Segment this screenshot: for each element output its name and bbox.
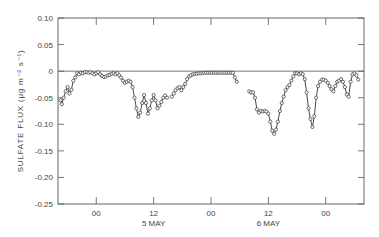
data-point-marker bbox=[355, 74, 358, 77]
data-point-marker bbox=[144, 101, 147, 104]
data-point-marker bbox=[184, 82, 187, 85]
data-point-marker bbox=[60, 102, 63, 105]
data-point-marker bbox=[170, 95, 173, 98]
data-point-marker bbox=[274, 128, 277, 131]
sulfate-flux-chart: 0.100.050-0.05-0.10-0.15-0.20-0.25 00125… bbox=[0, 0, 379, 237]
data-point-marker bbox=[182, 85, 185, 88]
data-point-marker bbox=[303, 78, 306, 81]
data-point-marker bbox=[307, 107, 310, 110]
data-point-marker bbox=[317, 84, 320, 87]
data-point-marker bbox=[235, 80, 238, 83]
data-point-marker bbox=[142, 93, 145, 96]
data-point-marker bbox=[68, 92, 71, 95]
data-point-marker bbox=[72, 79, 75, 82]
data-point-marker bbox=[120, 76, 123, 79]
data-point-marker bbox=[253, 96, 256, 99]
data-point-marker bbox=[160, 100, 163, 103]
y-tick-label: 0.10 bbox=[37, 14, 53, 23]
data-point-marker bbox=[129, 80, 132, 83]
data-point-marker bbox=[341, 80, 344, 83]
data-point-marker bbox=[290, 79, 293, 82]
data-point-marker bbox=[180, 89, 183, 92]
data-point-marker bbox=[292, 75, 295, 78]
data-point-marker bbox=[131, 85, 134, 88]
data-point-marker bbox=[148, 107, 151, 110]
data-point-marker bbox=[349, 80, 352, 83]
data-point-marker bbox=[146, 112, 149, 115]
data-point-marker bbox=[301, 73, 304, 76]
data-series bbox=[59, 71, 360, 136]
data-point-marker bbox=[328, 84, 331, 87]
data-point-marker bbox=[357, 78, 360, 81]
data-point-marker bbox=[278, 109, 281, 112]
data-point-marker bbox=[152, 93, 155, 96]
data-point-marker bbox=[282, 95, 285, 98]
data-point-marker bbox=[66, 85, 69, 88]
x-tick-label: 12 bbox=[264, 209, 273, 218]
data-point-marker bbox=[233, 76, 236, 79]
data-point-marker bbox=[62, 96, 65, 99]
flux-line-segment bbox=[172, 73, 237, 97]
data-point-marker bbox=[133, 96, 136, 99]
data-point-marker bbox=[332, 90, 335, 93]
data-point-marker bbox=[347, 95, 350, 98]
data-point-marker bbox=[165, 96, 168, 99]
y-tick-label: 0 bbox=[49, 67, 54, 76]
data-point-marker bbox=[267, 112, 270, 115]
data-point-marker bbox=[150, 99, 153, 102]
x-axis: 00125 MAY00126 MAY00 bbox=[92, 18, 331, 228]
data-point-marker bbox=[305, 91, 308, 94]
data-point-marker bbox=[141, 101, 144, 104]
y-axis-label: SULFATE FLUX (μg m⁻² s⁻¹) bbox=[16, 50, 25, 173]
data-point-marker bbox=[255, 108, 258, 111]
x-tick-label: 00 bbox=[207, 209, 216, 218]
y-tick-label: -0.10 bbox=[35, 120, 54, 129]
data-point-marker bbox=[231, 71, 234, 74]
data-point-marker bbox=[178, 85, 181, 88]
data-point-marker bbox=[313, 115, 316, 118]
data-point-marker bbox=[326, 81, 329, 84]
y-tick-label: -0.25 bbox=[35, 200, 54, 209]
data-point-marker bbox=[172, 92, 175, 95]
x-tick-label: 00 bbox=[321, 209, 330, 218]
data-point-marker bbox=[64, 90, 67, 93]
data-point-marker bbox=[309, 117, 312, 120]
data-point-marker bbox=[311, 125, 314, 128]
data-point-marker bbox=[276, 120, 279, 123]
data-point-marker bbox=[280, 101, 283, 104]
data-point-marker bbox=[59, 99, 62, 102]
x-date-label: 6 MAY bbox=[257, 219, 281, 228]
data-point-marker bbox=[158, 104, 161, 107]
x-date-label: 5 MAY bbox=[142, 219, 166, 228]
y-tick-label: 0.05 bbox=[37, 41, 53, 50]
data-point-marker bbox=[271, 129, 274, 132]
data-point-marker bbox=[288, 83, 291, 86]
data-point-marker bbox=[137, 115, 140, 118]
y-tick-label: -0.20 bbox=[35, 173, 54, 182]
data-point-marker bbox=[251, 91, 254, 94]
data-point-marker bbox=[70, 88, 73, 91]
data-point-marker bbox=[74, 76, 77, 79]
data-point-marker bbox=[284, 89, 287, 92]
data-point-marker bbox=[315, 96, 318, 99]
data-point-marker bbox=[343, 85, 346, 88]
data-point-marker bbox=[273, 132, 276, 135]
y-tick-label: -0.05 bbox=[35, 94, 54, 103]
data-point-marker bbox=[135, 107, 138, 110]
y-tick-label: -0.15 bbox=[35, 147, 54, 156]
data-point-marker bbox=[269, 120, 272, 123]
x-tick-label: 00 bbox=[92, 209, 101, 218]
plot-frame bbox=[58, 18, 364, 204]
data-point-marker bbox=[139, 111, 142, 114]
data-point-marker bbox=[334, 84, 337, 87]
x-tick-label: 12 bbox=[149, 209, 158, 218]
data-point-marker bbox=[154, 99, 157, 102]
